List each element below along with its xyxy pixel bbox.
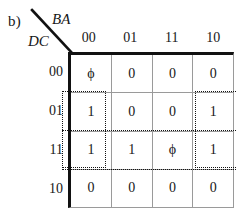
kmap-row: 1 1 ϕ 1 bbox=[71, 131, 233, 169]
kmap-cell: 1 bbox=[192, 132, 233, 169]
row-header-column: 00 01 11 10 bbox=[30, 52, 66, 208]
column-header-0: 00 bbox=[68, 26, 110, 50]
kmap-cell: 1 bbox=[192, 93, 233, 130]
row-header-1: 01 bbox=[30, 91, 66, 130]
row-header-3: 10 bbox=[30, 169, 66, 208]
kmap-cell: 0 bbox=[152, 55, 193, 92]
kmap-row: 1 0 0 1 bbox=[71, 92, 233, 130]
row-header-2: 11 bbox=[30, 130, 66, 169]
column-header-3: 10 bbox=[193, 26, 235, 50]
column-header-2: 11 bbox=[151, 26, 193, 50]
karnaugh-map-figure: b) BA DC 00 01 11 10 00 01 11 10 ϕ 0 0 0… bbox=[0, 0, 237, 214]
kmap-cell: 0 bbox=[111, 170, 152, 207]
kmap-cell: 0 bbox=[152, 170, 193, 207]
row-header-0: 00 bbox=[30, 52, 66, 91]
kmap-cell: 0 bbox=[192, 55, 233, 92]
kmap-cell: 1 bbox=[71, 93, 111, 130]
kmap-row: ϕ 0 0 0 bbox=[71, 55, 233, 92]
column-header-row: 00 01 11 10 bbox=[68, 26, 234, 50]
kmap-cell: 1 bbox=[71, 132, 111, 169]
figure-label: b) bbox=[8, 13, 21, 30]
row-variable-label: DC bbox=[28, 33, 49, 50]
kmap-cell: ϕ bbox=[152, 132, 193, 169]
kmap-cell: 0 bbox=[111, 93, 152, 130]
kmap-row: 0 0 0 0 bbox=[71, 169, 233, 207]
kmap-cell: 0 bbox=[111, 55, 152, 92]
kmap-cell: ϕ bbox=[71, 55, 111, 92]
kmap-cell: 0 bbox=[192, 170, 233, 207]
kmap-cell: 1 bbox=[111, 132, 152, 169]
kmap-cell: 0 bbox=[71, 170, 111, 207]
column-header-1: 01 bbox=[110, 26, 152, 50]
kmap-cell: 0 bbox=[152, 93, 193, 130]
kmap-grid: ϕ 0 0 0 1 0 0 1 1 1 ϕ 1 0 0 0 0 bbox=[68, 52, 234, 208]
